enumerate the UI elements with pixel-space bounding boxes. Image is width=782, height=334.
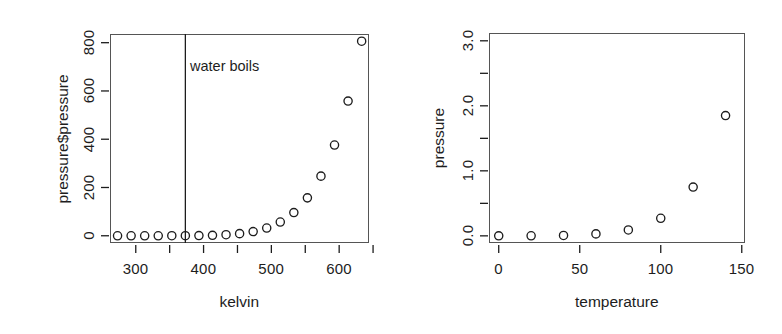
x-tick-label: 0	[494, 260, 503, 277]
y-axis-title-right: pressure	[430, 108, 448, 168]
y-tick-label: 400	[80, 126, 97, 152]
x-tick-label: 100	[648, 260, 674, 277]
y-tick-label: 0.0	[459, 225, 476, 246]
x-axis-title-right: temperature	[575, 293, 659, 311]
chart-panel-right: 0.0 1.0 2.0 3.0 0 50 100 150 temperature…	[391, 0, 782, 334]
y-tick-label: 2.0	[459, 95, 476, 116]
y-tick-label: 1.0	[459, 160, 476, 181]
y-axis-title-left: pressure$pressure	[53, 74, 71, 203]
x-tick-label: 500	[258, 260, 284, 277]
y-tick-label: 600	[80, 78, 97, 104]
water-boils-annotation: water boils	[190, 58, 259, 74]
chart-panel-left: 0 200 400 600 800 300 400 500 600 kelvin…	[0, 0, 391, 334]
x-tick-label: 400	[191, 260, 217, 277]
x-tick-label: 150	[729, 260, 755, 277]
x-axis-title-left: kelvin	[220, 293, 260, 311]
x-tick-label: 300	[123, 260, 149, 277]
plot-canvas-right	[391, 0, 782, 334]
y-tick-label: 200	[80, 175, 97, 201]
y-tick-label: 0	[80, 231, 97, 240]
x-tick-label: 50	[571, 260, 588, 277]
y-tick-label: 3.0	[459, 30, 476, 51]
x-tick-label: 600	[326, 260, 352, 277]
y-tick-label: 800	[80, 30, 97, 56]
